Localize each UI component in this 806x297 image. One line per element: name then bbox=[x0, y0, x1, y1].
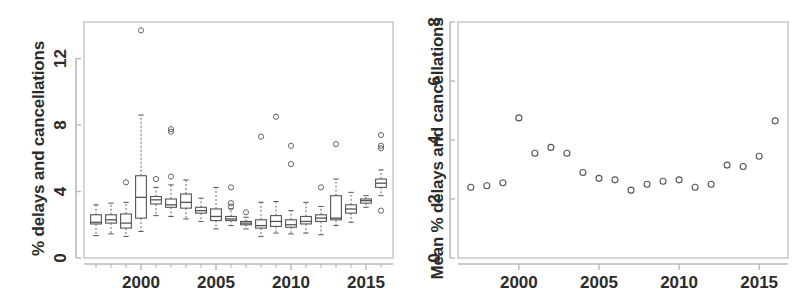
outlier-point bbox=[228, 185, 233, 190]
boxplot-group bbox=[271, 114, 282, 233]
plot-frame bbox=[458, 22, 788, 258]
x-tick-label: 2010 bbox=[272, 273, 310, 292]
boxplot-group bbox=[91, 205, 102, 236]
scatter-point bbox=[612, 177, 618, 183]
box-iqr bbox=[286, 220, 297, 227]
scatter-point bbox=[756, 153, 762, 159]
scatter-point bbox=[596, 175, 602, 181]
outlier-point bbox=[378, 132, 383, 137]
x-tick-label: 2000 bbox=[122, 273, 160, 292]
figure-two-panel-delays-cancellations: % delays and cancellations 0481220002005… bbox=[0, 0, 806, 297]
boxplot-group bbox=[151, 176, 162, 215]
x-tick-label: 2015 bbox=[740, 273, 778, 292]
y-tick-label: 4 bbox=[51, 186, 70, 196]
outlier-point bbox=[138, 28, 143, 33]
scatter-point bbox=[532, 150, 538, 156]
boxplot-group bbox=[211, 187, 222, 229]
boxplot-group bbox=[181, 180, 192, 219]
y-tick-label: 0 bbox=[425, 253, 444, 262]
scatter-point bbox=[564, 150, 570, 156]
x-tick-label: 2005 bbox=[197, 273, 235, 292]
scatter-point bbox=[708, 181, 714, 187]
boxplot-group bbox=[331, 142, 342, 226]
scatter-point bbox=[740, 164, 746, 170]
scatter-point bbox=[644, 181, 650, 187]
x-tick-label: 2010 bbox=[660, 273, 698, 292]
x-tick-label: 2000 bbox=[500, 273, 538, 292]
boxplot-group bbox=[241, 210, 252, 229]
box-iqr bbox=[331, 196, 342, 220]
outlier-point bbox=[228, 204, 233, 209]
outlier-point bbox=[333, 142, 338, 147]
boxplot-group bbox=[286, 143, 297, 234]
outlier-point bbox=[123, 180, 128, 185]
box-iqr bbox=[301, 216, 312, 223]
scatter-point bbox=[628, 187, 634, 193]
scatter-point bbox=[692, 184, 698, 190]
boxplot-group bbox=[196, 198, 207, 221]
box-iqr bbox=[166, 199, 177, 207]
outlier-point bbox=[153, 176, 158, 181]
x-tick-label: 2015 bbox=[347, 273, 385, 292]
y-tick-label: 6 bbox=[425, 76, 444, 85]
boxplot-group bbox=[316, 185, 327, 235]
outlier-point bbox=[288, 161, 293, 166]
boxplot-group bbox=[376, 132, 387, 213]
boxplot-group bbox=[346, 192, 357, 222]
y-tick-label: 4 bbox=[425, 135, 444, 145]
boxplot-group bbox=[166, 127, 177, 217]
outlier-point bbox=[168, 174, 173, 179]
scatter-point bbox=[580, 169, 586, 175]
y-tick-label: 12 bbox=[51, 49, 70, 68]
box-iqr bbox=[256, 220, 267, 228]
outlier-point bbox=[378, 208, 383, 213]
boxplot-group bbox=[256, 134, 267, 236]
boxplot-group bbox=[136, 28, 147, 232]
boxplot-group bbox=[121, 180, 132, 237]
box-iqr bbox=[121, 214, 132, 228]
boxplot-canvas: 048122000200520102015 bbox=[0, 0, 403, 297]
scatter-point bbox=[676, 177, 682, 183]
scatter-point bbox=[548, 144, 554, 150]
boxplot-group bbox=[301, 202, 312, 233]
x-tick-label: 2005 bbox=[580, 273, 618, 292]
outlier-point bbox=[318, 185, 323, 190]
boxplot-group bbox=[106, 203, 117, 234]
outlier-point bbox=[273, 114, 278, 119]
box-iqr bbox=[211, 209, 222, 221]
boxplot-group bbox=[361, 196, 372, 208]
scatter-point bbox=[484, 183, 490, 189]
scatter-point bbox=[724, 162, 730, 168]
scatter-canvas: 024682000200520102015 bbox=[403, 0, 806, 297]
outlier-point bbox=[243, 210, 248, 215]
y-tick-label: 2 bbox=[425, 194, 444, 203]
box-iqr bbox=[181, 194, 192, 208]
boxplot-group bbox=[226, 185, 237, 226]
outlier-point bbox=[258, 134, 263, 139]
scatter-point bbox=[772, 118, 778, 124]
y-tick-label: 0 bbox=[51, 253, 70, 262]
scatter-point bbox=[500, 180, 506, 186]
scatter-point bbox=[468, 184, 474, 190]
scatter-point bbox=[660, 178, 666, 184]
outlier-point bbox=[288, 143, 293, 148]
y-tick-label: 8 bbox=[425, 17, 444, 26]
panel-scatter: Mean % delays and cancellations 02468200… bbox=[403, 0, 806, 297]
panel-boxplot: % delays and cancellations 0481220002005… bbox=[0, 0, 403, 297]
box-iqr bbox=[106, 215, 117, 223]
scatter-point bbox=[516, 115, 522, 121]
y-tick-label: 8 bbox=[51, 120, 70, 129]
